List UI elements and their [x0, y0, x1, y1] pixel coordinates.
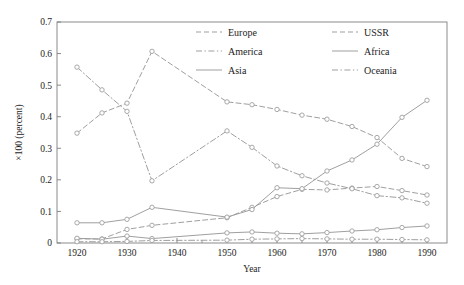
data-point — [125, 217, 129, 221]
data-point — [400, 237, 404, 241]
data-point — [300, 232, 304, 236]
data-point — [350, 186, 354, 190]
data-point — [375, 237, 379, 241]
data-point — [400, 188, 404, 192]
data-point — [100, 88, 104, 92]
data-point — [225, 231, 229, 235]
data-point — [100, 111, 104, 115]
chart-canvas: 00.10.20.30.40.50.60.7 19201930194019501… — [0, 0, 464, 285]
x-axis-title: Year — [243, 264, 261, 274]
data-point — [225, 215, 229, 219]
data-point — [325, 181, 329, 185]
y-tick-label: 0.2 — [40, 175, 52, 185]
data-point — [125, 239, 129, 243]
data-point — [425, 201, 429, 205]
data-point — [325, 188, 329, 192]
data-point — [75, 221, 79, 225]
data-point — [75, 65, 79, 69]
legend-label: USSR — [364, 27, 389, 38]
legend-label: Europe — [228, 27, 257, 38]
data-point — [350, 229, 354, 233]
y-tick-label: 0.3 — [40, 144, 52, 154]
data-point — [125, 234, 129, 238]
y-tick-label: 0 — [47, 238, 52, 248]
data-point — [400, 196, 404, 200]
data-point — [400, 115, 404, 119]
data-point — [250, 237, 254, 241]
data-point — [150, 238, 154, 242]
data-point — [375, 228, 379, 232]
data-point — [225, 100, 229, 104]
data-point — [250, 103, 254, 107]
x-tick-label: 1940 — [168, 248, 187, 258]
data-point — [300, 113, 304, 117]
data-point — [375, 135, 379, 139]
x-tick-label: 1980 — [368, 248, 387, 258]
data-point — [225, 129, 229, 133]
data-point — [125, 101, 129, 105]
data-point — [425, 224, 429, 228]
data-point — [350, 158, 354, 162]
data-point — [275, 107, 279, 111]
data-point — [375, 193, 379, 197]
data-point — [275, 231, 279, 235]
data-point — [300, 174, 304, 178]
data-point — [100, 221, 104, 225]
legend-label: Asia — [228, 65, 247, 76]
x-tick-label: 1930 — [118, 248, 137, 258]
data-point — [75, 240, 79, 244]
data-point — [350, 124, 354, 128]
y-tick-label: 0.7 — [40, 17, 52, 27]
data-point — [325, 169, 329, 173]
data-point — [300, 186, 304, 190]
data-point — [275, 194, 279, 198]
data-point — [150, 223, 154, 227]
data-point — [275, 237, 279, 241]
y-tick-label: 0.1 — [40, 207, 52, 217]
data-point — [425, 193, 429, 197]
data-point — [125, 227, 129, 231]
data-point — [150, 205, 154, 209]
legend-label: Africa — [364, 46, 390, 57]
data-point — [300, 236, 304, 240]
x-tick-label: 1960 — [268, 248, 287, 258]
data-point — [75, 131, 79, 135]
data-point — [400, 156, 404, 160]
y-tick-label: 0.4 — [40, 112, 52, 122]
x-tick-label: 1970 — [318, 248, 337, 258]
legend-label: America — [228, 46, 263, 57]
data-point — [250, 207, 254, 211]
data-point — [275, 164, 279, 168]
data-point — [375, 184, 379, 188]
data-point — [425, 98, 429, 102]
data-point — [250, 230, 254, 234]
data-point — [225, 238, 229, 242]
data-point — [100, 240, 104, 244]
x-tick-label: 1920 — [68, 248, 87, 258]
data-point — [375, 142, 379, 146]
data-point — [150, 49, 154, 53]
data-point — [325, 237, 329, 241]
data-point — [325, 230, 329, 234]
data-point — [125, 109, 129, 113]
x-tick-label: 1950 — [218, 248, 237, 258]
x-tick-label: 1990 — [418, 248, 437, 258]
y-tick-label: 0.5 — [40, 81, 52, 91]
data-point — [400, 225, 404, 229]
y-tick-label: 0.6 — [40, 49, 52, 59]
y-axis-title: ×100 (percent) — [14, 104, 25, 160]
line-chart: 00.10.20.30.40.50.60.7 19201930194019501… — [0, 0, 464, 285]
data-point — [425, 238, 429, 242]
data-point — [275, 186, 279, 190]
data-point — [150, 179, 154, 183]
chart-background — [0, 0, 464, 285]
data-point — [325, 117, 329, 121]
data-point — [425, 164, 429, 168]
legend-label: Oceania — [364, 65, 397, 76]
data-point — [350, 237, 354, 241]
data-point — [250, 145, 254, 149]
